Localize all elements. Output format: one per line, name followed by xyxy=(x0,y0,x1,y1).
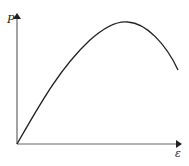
load-strain-curve xyxy=(17,22,178,144)
p-epsilon-chart: P ε xyxy=(0,0,189,166)
y-axis-label: P xyxy=(7,14,14,25)
chart-svg xyxy=(0,0,189,166)
x-axis-label: ε xyxy=(175,148,181,159)
